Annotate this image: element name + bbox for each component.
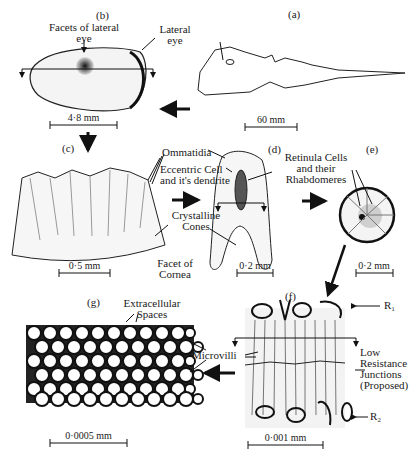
label-ommatidia: Ommatidia (162, 147, 212, 158)
label-extracellular-spaces: Extracellular Spaces (112, 298, 192, 320)
scale-label-g: 0·0005 mm (50, 430, 127, 441)
label-r1: R₁ (384, 300, 395, 311)
panel-label-f: (f) (285, 290, 296, 302)
panel-label-e: (e) (366, 143, 378, 155)
label-low-resistance-junctions: Low Resistance Junctions (Proposed) (360, 347, 420, 391)
label-microvilli: Microvilli (192, 350, 237, 361)
panel-label-a: (a) (288, 8, 300, 20)
panel-label-c: (c) (62, 142, 74, 154)
panel-label-g: (g) (87, 296, 100, 308)
panel-a-crab-drawing (198, 42, 405, 95)
label-r2: R₂ (370, 411, 381, 422)
label-facets-of-lateral-eye: Facets of lateral eye (48, 22, 120, 44)
panel-f-junction-drawing (235, 300, 380, 428)
scale-label-a: 60 mm (245, 114, 297, 125)
panel-b-eye-drawing (22, 38, 155, 111)
scale-label-b: 4·8 mm (50, 112, 117, 123)
scale-label-f: 0·001 mm (248, 432, 323, 443)
panel-g-microvilli-drawing (26, 325, 203, 406)
label-lateral-eye: Lateral eye (155, 24, 195, 46)
label-facet-of-cornea: Facet of Cornea (150, 258, 200, 280)
label-crystalline-cones: Crystalline Cones (165, 210, 227, 232)
panel-label-b: (b) (96, 9, 109, 21)
label-eccentric-cell: Eccentric Cell and it's dendrite (160, 164, 240, 186)
scale-label-d: 0·2 mm (237, 260, 273, 271)
panel-c-ommatidia-drawing (12, 154, 168, 261)
scale-label-e: 0·2 mm (352, 260, 396, 271)
scale-label-c: 0·5 mm (59, 260, 110, 271)
label-retinula-cells: Retinula Cells and their Rhabdomeres (278, 152, 354, 185)
